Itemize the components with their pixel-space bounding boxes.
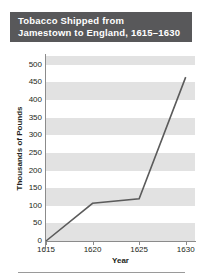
chart-title-line-1: Tobacco Shipped from [18, 15, 192, 27]
chart-title-bar: Tobacco Shipped from Jamestown to Englan… [10, 12, 192, 42]
data-series-line [0, 48, 201, 263]
bottom-divider [18, 272, 185, 273]
chart-figure: Tobacco Shipped from Jamestown to Englan… [0, 0, 201, 280]
chart-plot-area: 050100150200250300350400450500 161516201… [0, 48, 201, 263]
chart-title-line-2: Jamestown to England, 1615–1630 [18, 27, 192, 39]
